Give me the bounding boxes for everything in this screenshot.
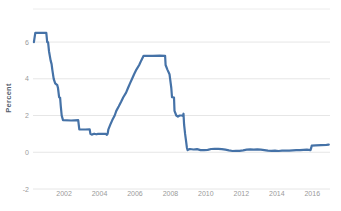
- x-tick-label-2002: 2002: [56, 190, 72, 197]
- y-tick-label-4: 4: [25, 75, 29, 82]
- y-tick-label-6: 6: [25, 39, 29, 46]
- x-tick-label-2008: 2008: [163, 190, 179, 197]
- y-tick-label-2: 2: [25, 112, 29, 119]
- x-tick-label-2010: 2010: [198, 190, 214, 197]
- x-tick-label-2006: 2006: [127, 190, 143, 197]
- x-tick-label-2016: 2016: [304, 190, 320, 197]
- gridline-layer: [33, 9, 330, 189]
- x-tick-label-2004: 2004: [92, 190, 108, 197]
- chart-canvas: 6420-220022004200620082010201220142016 P…: [0, 0, 341, 211]
- y-tick-label--2: -2: [23, 186, 29, 193]
- series-line-effective-federal-funds-rate: [34, 33, 329, 151]
- x-tick-label-2012: 2012: [234, 190, 250, 197]
- x-tick-label-2014: 2014: [269, 190, 285, 197]
- series-layer: [34, 33, 329, 151]
- axis-label-layer: 6420-220022004200620082010201220142016: [23, 39, 320, 197]
- y-tick-label-0: 0: [25, 149, 29, 156]
- y-axis-title: Percent: [4, 83, 13, 113]
- fred-fed-funds-chart: 6420-220022004200620082010201220142016 P…: [0, 0, 341, 211]
